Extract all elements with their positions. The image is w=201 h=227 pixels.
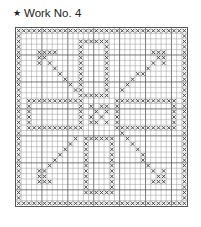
stitch-x-icon [121,29,124,32]
stitch-x-icon [89,115,92,118]
stitch-x-icon [141,202,144,205]
stitch-x-icon [53,126,56,129]
stitch-x-icon [53,29,56,32]
stitch-x-icon [79,56,82,59]
stitch-x-icon [27,99,30,102]
stitch-x-icon [89,29,92,32]
stitch-x-icon [89,137,92,140]
stitch-x-icon [95,94,98,97]
stitch-x-icon [74,99,77,102]
stitch-x-icon [64,148,67,151]
stitch-x-icon [84,153,87,156]
stitch-x-icon [152,29,155,32]
stitch-x-icon [183,72,186,75]
stitch-x-icon [32,29,35,32]
stitch-x-icon [152,99,155,102]
stitch-x-icon [105,104,108,107]
stitch-x-icon [105,94,108,97]
stitch-x-icon [183,153,186,156]
stitch-x-icon [58,29,61,32]
stitch-x-icon [17,83,20,86]
stitch-x-icon [183,175,186,178]
stitch-x-icon [146,29,149,32]
stitch-x-icon [32,126,35,129]
stitch-x-icon [162,169,165,172]
stitch-x-icon [74,88,77,91]
stitch-x-icon [121,126,124,129]
stitch-x-icon [79,126,82,129]
stitch-x-icon [152,61,155,64]
stitch-x-icon [84,148,87,151]
stitch-x-icon [146,99,149,102]
stitch-x-icon [110,180,113,183]
stitch-x-icon [183,196,186,199]
stitch-x-icon [183,99,186,102]
stitch-x-icon [100,137,103,140]
stitch-x-icon [172,99,175,102]
stitch-x-icon [48,180,51,183]
stitch-x-icon [22,29,25,32]
stitch-x-icon [84,40,87,43]
stitch-x-icon [79,88,82,91]
stitch-x-icon [27,29,30,32]
stitch-chart [15,27,188,207]
stitch-x-icon [157,126,160,129]
stitch-x-icon [43,126,46,129]
stitch-x-icon [178,202,181,205]
stitch-x-icon [172,29,175,32]
stitch-x-icon [43,202,46,205]
stitch-x-icon [84,169,87,172]
stitch-x-icon [17,185,20,188]
stitch-x-icon [64,99,67,102]
stitch-x-icon [183,40,186,43]
stitch-x-icon [157,56,160,59]
stitch-x-icon [27,202,30,205]
stitch-x-icon [17,56,20,59]
stitch-x-icon [58,153,61,156]
stitch-x-icon [157,51,160,54]
stitch-x-icon [146,164,149,167]
stitch-x-icon [141,29,144,32]
stitch-x-icon [100,191,103,194]
stitch-x-icon [17,142,20,145]
stitch-x-icon [141,99,144,102]
stitch-x-icon [79,110,82,113]
stitch-x-icon [17,99,20,102]
stitch-x-icon [69,99,72,102]
stitch-x-icon [110,202,113,205]
stitch-x-icon [183,34,186,37]
stitch-x-icon [38,126,41,129]
stitch-x-icon [27,115,30,118]
stitch-x-icon [157,180,160,183]
stitch-x-icon [17,131,20,134]
stitch-x-icon [110,191,113,194]
stitch-x-icon [131,202,134,205]
stitch-x-icon [58,202,61,205]
stitch-x-icon [17,34,20,37]
stitch-x-icon [38,175,41,178]
stitch-x-icon [178,29,181,32]
stitch-x-icon [146,202,149,205]
chart-title: ★Work No. 4 [13,7,81,19]
stitch-x-icon [157,175,160,178]
stitch-x-icon [162,126,165,129]
stitch-x-icon [43,175,46,178]
stitch-x-icon [105,110,108,113]
stitch-x-icon [84,142,87,145]
stitch-x-icon [43,180,46,183]
stitch-x-icon [17,126,20,129]
stitch-x-icon [172,202,175,205]
stitch-x-icon [183,202,186,205]
stitch-x-icon [110,29,113,32]
stitch-x-icon [126,137,129,140]
stitch-x-icon [126,29,129,32]
stitch-x-icon [38,202,41,205]
stitch-x-icon [17,72,20,75]
stitch-x-icon [74,29,77,32]
stitch-x-icon [17,164,20,167]
stitch-x-icon [183,51,186,54]
stitch-x-icon [17,115,20,118]
stitch-x-icon [53,202,56,205]
stitch-x-icon [58,72,61,75]
stitch-x-icon [95,110,98,113]
